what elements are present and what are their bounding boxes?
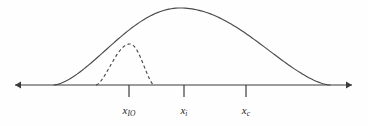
axis-label-subscript: i [185, 109, 187, 118]
axis-arrow-left-icon [15, 82, 21, 89]
tick-x-i-label: xi [180, 105, 187, 116]
dashed-distribution-curve [96, 44, 154, 85]
tick-x-c-label: xc [242, 105, 250, 116]
axis-arrow-right-icon [346, 82, 352, 89]
axis-label-subscript: c [247, 109, 250, 118]
tick-marks-group [129, 85, 246, 97]
figure-container: xIOxixc [0, 0, 368, 126]
tick-x-io-label: xIO [122, 105, 135, 116]
solid-distribution-curve [54, 8, 330, 85]
axis-label-subscript: IO [127, 109, 135, 118]
